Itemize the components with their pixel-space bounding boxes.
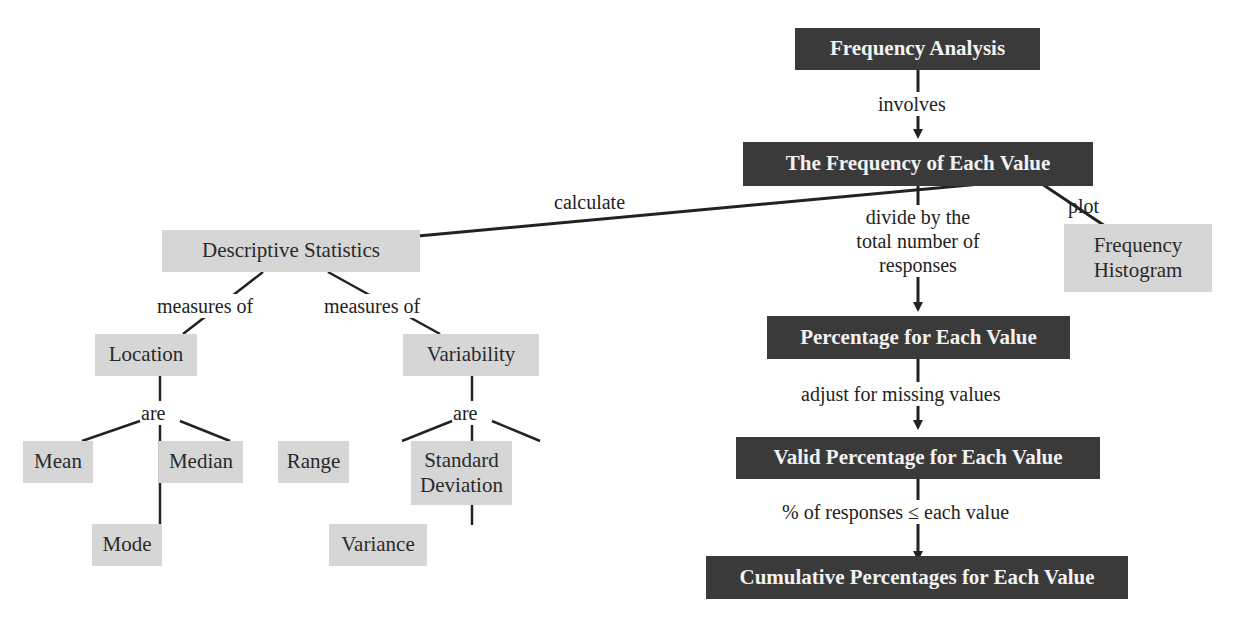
node-mean: Mean — [23, 441, 93, 483]
node-standard-deviation: Standard Deviation — [411, 441, 512, 505]
node-frequency-each-value: The Frequency of Each Value — [743, 142, 1093, 186]
label-plot: plot — [1068, 194, 1099, 218]
node-frequency-histogram: Frequency Histogram — [1064, 224, 1212, 292]
node-location: Location — [95, 334, 197, 376]
line-are-range — [402, 421, 452, 441]
label-are-variability: are — [453, 401, 477, 425]
node-valid-percentage: Valid Percentage for Each Value — [736, 437, 1100, 479]
node-range: Range — [278, 441, 349, 483]
label-measures-of-variability: measures of — [324, 294, 420, 318]
node-frequency-analysis: Frequency Analysis — [795, 28, 1040, 70]
node-cumulative-percentages: Cumulative Percentages for Each Value — [706, 556, 1128, 599]
label-measures-of-location: measures of — [157, 294, 253, 318]
line-are-median — [180, 421, 230, 441]
label-divide: divide by the total number of responses — [852, 205, 984, 277]
node-percentage-each-value: Percentage for Each Value — [767, 316, 1070, 359]
label-calculate: calculate — [550, 190, 629, 214]
node-mode: Mode — [92, 524, 162, 566]
node-median: Median — [159, 441, 243, 483]
label-are-location: are — [141, 401, 165, 425]
node-variance: Variance — [329, 524, 427, 566]
line-are-mean — [82, 421, 140, 441]
label-adjust: adjust for missing values — [799, 382, 1002, 406]
node-variability: Variability — [403, 334, 539, 376]
node-descriptive-statistics: Descriptive Statistics — [162, 230, 420, 272]
label-involves: involves — [878, 92, 946, 116]
label-cumulative: % of responses ≤ each value — [780, 500, 1011, 524]
line-are-stddev — [492, 421, 540, 441]
